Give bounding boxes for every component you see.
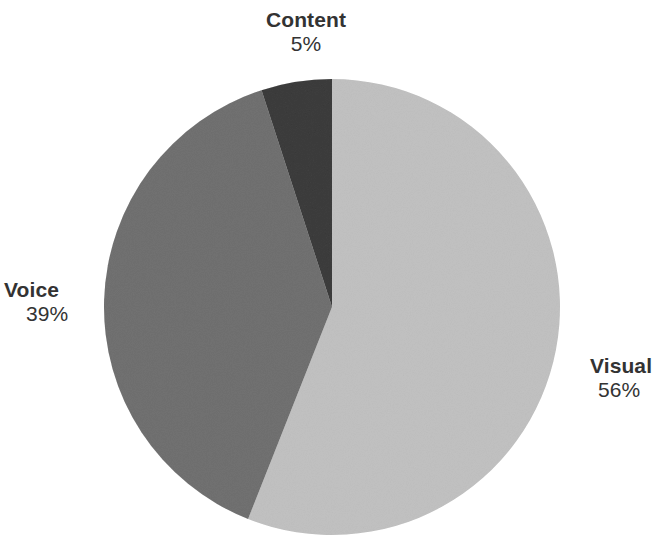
pie-label-visual-name: Visual: [590, 354, 652, 378]
pie-label-content: Content 5%: [0, 8, 662, 57]
pie-label-content-name: Content: [0, 8, 662, 32]
pie-label-voice: Voice 39%: [4, 278, 68, 327]
pie-label-voice-name: Voice: [4, 278, 68, 302]
pie-chart: Content 5% Voice 39% Visual 56%: [0, 0, 662, 554]
pie-chart-canvas: [0, 0, 662, 554]
pie-label-voice-value: 39%: [26, 302, 68, 326]
pie-label-content-value: 5%: [0, 32, 662, 56]
pie-label-visual-value: 56%: [598, 378, 652, 402]
pie-label-visual: Visual 56%: [590, 354, 652, 403]
